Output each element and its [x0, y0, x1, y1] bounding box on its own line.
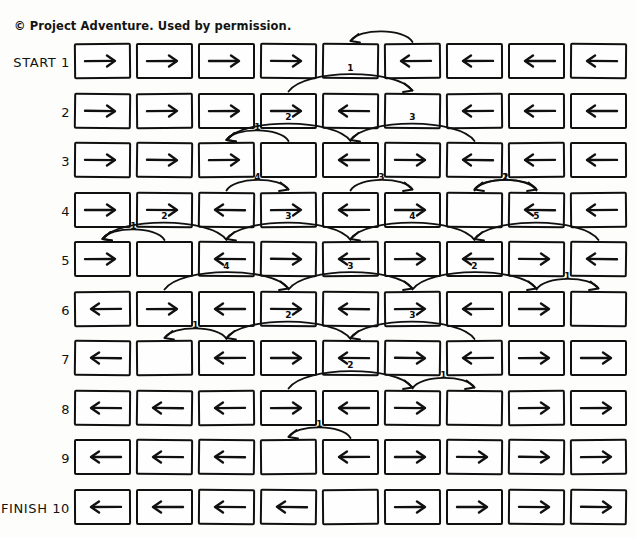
- empty-cell[interactable]: [136, 241, 193, 277]
- left-arrow-cell[interactable]: [446, 290, 503, 326]
- left-arrow-cell[interactable]: [508, 92, 565, 128]
- empty-cell[interactable]: [322, 488, 379, 524]
- left-arrow-cell[interactable]: [508, 142, 565, 178]
- left-arrow-cell[interactable]: [446, 241, 503, 277]
- left-arrow-cell[interactable]: [198, 340, 255, 376]
- left-arrow-icon: [578, 53, 618, 69]
- left-arrow-cell[interactable]: [384, 43, 441, 79]
- left-arrow-cell[interactable]: [570, 43, 627, 79]
- left-arrow-icon: [454, 102, 494, 118]
- left-arrow-cell[interactable]: [322, 92, 379, 128]
- empty-cell[interactable]: [260, 439, 317, 475]
- left-arrow-cell[interactable]: [322, 290, 379, 327]
- empty-cell[interactable]: [446, 389, 503, 426]
- left-arrow-cell[interactable]: [570, 241, 627, 278]
- right-arrow-cell[interactable]: [136, 290, 193, 326]
- right-arrow-cell[interactable]: [384, 192, 441, 228]
- empty-cell[interactable]: [136, 340, 193, 376]
- left-arrow-cell[interactable]: [508, 43, 565, 79]
- right-arrow-cell[interactable]: [136, 142, 193, 179]
- right-arrow-cell[interactable]: [74, 142, 131, 178]
- left-arrow-cell[interactable]: [74, 340, 131, 377]
- left-arrow-icon: [206, 498, 246, 514]
- right-arrow-cell[interactable]: [570, 389, 627, 425]
- left-arrow-cell[interactable]: [508, 191, 565, 228]
- left-arrow-cell[interactable]: [198, 241, 255, 277]
- left-arrow-cell[interactable]: [446, 43, 503, 79]
- left-arrow-cell[interactable]: [322, 241, 379, 277]
- row-label-8: 8: [0, 402, 70, 417]
- left-arrow-cell[interactable]: [74, 439, 131, 475]
- left-arrow-cell[interactable]: [198, 191, 255, 228]
- row-cells: [74, 142, 627, 178]
- left-arrow-icon: [144, 399, 184, 415]
- left-arrow-cell[interactable]: [322, 142, 379, 178]
- left-arrow-cell[interactable]: [74, 389, 131, 425]
- right-arrow-cell[interactable]: [384, 488, 441, 524]
- left-arrow-cell[interactable]: [446, 92, 503, 128]
- right-arrow-cell[interactable]: [384, 439, 441, 475]
- right-arrow-cell[interactable]: [384, 340, 441, 377]
- left-arrow-cell[interactable]: [322, 390, 379, 426]
- right-arrow-cell[interactable]: [508, 488, 565, 524]
- right-arrow-cell[interactable]: [198, 142, 255, 178]
- empty-cell[interactable]: [384, 92, 441, 129]
- right-arrow-cell[interactable]: [74, 43, 131, 79]
- right-arrow-cell[interactable]: [508, 389, 565, 425]
- right-arrow-cell[interactable]: [74, 192, 131, 228]
- right-arrow-cell[interactable]: [446, 439, 503, 475]
- right-arrow-cell[interactable]: [570, 439, 627, 475]
- left-arrow-cell[interactable]: [446, 142, 503, 179]
- right-arrow-cell[interactable]: [260, 191, 317, 227]
- right-arrow-cell[interactable]: [136, 92, 193, 128]
- left-arrow-cell[interactable]: [198, 291, 255, 327]
- right-arrow-cell[interactable]: [508, 340, 565, 376]
- right-arrow-cell[interactable]: [136, 191, 193, 227]
- right-arrow-icon: [455, 499, 495, 515]
- left-arrow-cell[interactable]: [322, 191, 379, 227]
- right-arrow-cell[interactable]: [136, 43, 193, 79]
- left-arrow-cell[interactable]: [74, 488, 131, 524]
- left-arrow-cell[interactable]: [136, 389, 193, 426]
- empty-cell[interactable]: [446, 191, 503, 227]
- right-arrow-cell[interactable]: [384, 241, 441, 277]
- right-arrow-cell[interactable]: [384, 142, 441, 178]
- right-arrow-cell[interactable]: [570, 340, 627, 376]
- left-arrow-cell[interactable]: [136, 489, 193, 525]
- empty-cell[interactable]: [322, 43, 379, 80]
- left-arrow-cell[interactable]: [136, 439, 193, 475]
- right-arrow-cell[interactable]: [260, 241, 317, 278]
- right-arrow-cell[interactable]: [74, 241, 131, 277]
- right-arrow-cell[interactable]: [260, 389, 317, 425]
- left-arrow-cell[interactable]: [260, 488, 317, 525]
- left-arrow-cell[interactable]: [570, 191, 627, 227]
- left-arrow-cell[interactable]: [570, 142, 627, 178]
- right-arrow-cell[interactable]: [508, 241, 565, 277]
- left-arrow-cell[interactable]: [198, 389, 255, 425]
- left-arrow-cell[interactable]: [198, 488, 255, 524]
- right-arrow-cell[interactable]: [260, 340, 317, 376]
- right-arrow-cell[interactable]: [260, 290, 317, 326]
- right-arrow-icon: [392, 498, 432, 514]
- left-arrow-cell[interactable]: [570, 93, 627, 129]
- right-arrow-cell[interactable]: [198, 43, 255, 79]
- left-arrow-cell[interactable]: [198, 439, 255, 476]
- left-arrow-cell[interactable]: [74, 290, 131, 326]
- empty-cell[interactable]: [570, 290, 627, 326]
- left-arrow-cell[interactable]: [322, 340, 379, 376]
- right-arrow-cell[interactable]: [198, 92, 255, 128]
- right-arrow-cell[interactable]: [446, 489, 503, 525]
- right-arrow-cell[interactable]: [384, 290, 441, 326]
- right-arrow-cell[interactable]: [384, 389, 441, 425]
- left-arrow-cell[interactable]: [446, 340, 503, 376]
- empty-cell[interactable]: [260, 142, 317, 178]
- right-arrow-cell[interactable]: [260, 43, 317, 79]
- right-arrow-cell[interactable]: [508, 291, 565, 327]
- right-arrow-cell[interactable]: [74, 92, 131, 129]
- right-arrow-cell[interactable]: [508, 439, 565, 476]
- left-arrow-icon: [206, 350, 246, 366]
- right-arrow-icon: [82, 152, 122, 168]
- right-arrow-cell[interactable]: [570, 488, 627, 525]
- left-arrow-cell[interactable]: [322, 439, 379, 475]
- right-arrow-cell[interactable]: [260, 93, 317, 129]
